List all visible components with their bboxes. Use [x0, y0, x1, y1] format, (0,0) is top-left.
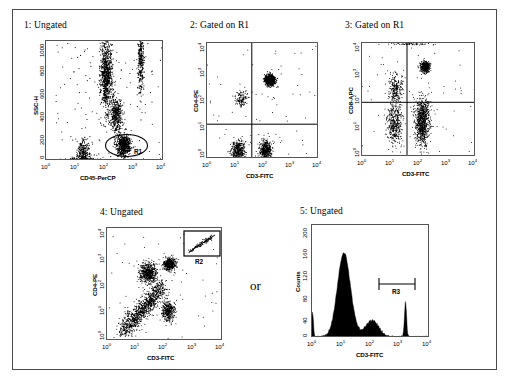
panel-1-scatter — [46, 41, 163, 160]
panel-4-ytick-4: 104 — [99, 229, 105, 238]
connector-or-text: or — [250, 278, 261, 294]
panel-2-ytick-3: 103 — [199, 68, 205, 77]
panel-2-xtick-4: 104 — [312, 162, 321, 168]
panel-3-ytick-3: 103 — [354, 69, 360, 78]
panel-1-ylabel: SSC-H — [32, 96, 39, 115]
panel-5-gate-label-r3: R3 — [392, 288, 400, 295]
panel-4-xtick-4: 104 — [215, 344, 224, 350]
panel-5-xtick-4: 104 — [422, 341, 431, 347]
panel-5-ytick-120: 120 — [302, 271, 308, 281]
panel-3-title: 3: Gated on R1 — [345, 20, 404, 30]
panel-5-ytick-200: 200 — [302, 228, 308, 238]
panel-2-title: 2: Gated on R1 — [190, 20, 249, 30]
panel-3-scatter — [362, 43, 475, 156]
panel-4-xtick-1: 101 — [130, 344, 139, 350]
panel-5-histogram — [312, 225, 429, 337]
panel-1-xlabel: CD45-PerCP — [80, 174, 115, 181]
panel-3-plot-area — [361, 42, 475, 156]
panel-2-xlabel: CD3-FITC — [246, 172, 273, 179]
panel-1-xtick-0: 100 — [41, 164, 50, 170]
panel-5-ytick-80: 80 — [302, 295, 308, 302]
panel-5-xtick-2: 102 — [365, 341, 374, 347]
panel-2-plot-area — [206, 42, 318, 158]
panel-3-xlabel: CD3-FITC — [402, 170, 429, 177]
panel-5-ytick-40: 40 — [302, 317, 308, 324]
panel-4-ytick-2: 102 — [99, 280, 105, 289]
panel-3-ytick-0: 100 — [354, 148, 360, 157]
panel-3-xtick-0: 100 — [357, 160, 366, 166]
panel-4-xtick-2: 102 — [158, 344, 167, 350]
panel-1-xtick-2: 102 — [99, 164, 108, 170]
panel-4-scatter — [107, 228, 222, 340]
panel-1-plot-area — [45, 40, 163, 160]
panel-3-ytick-4: 104 — [354, 43, 360, 52]
panel-3-xtick-3: 103 — [441, 160, 450, 166]
panel-1-xtick-4: 104 — [156, 164, 165, 170]
panel-2-xtick-1: 101 — [230, 162, 239, 168]
panel-2-ytick-1: 101 — [199, 122, 205, 131]
panel-4-xtick-3: 103 — [187, 344, 196, 350]
panel-4-title: 4: Ungated — [100, 207, 143, 217]
panel-2-xtick-0: 100 — [202, 162, 211, 168]
panel-3-ytick-2: 102 — [354, 95, 360, 104]
panel-1-title: 1: Ungated — [24, 20, 67, 30]
panel-5-ylabel: Counts — [294, 271, 301, 292]
panel-5-xtick-1: 101 — [336, 341, 345, 347]
panel-4-plot-area — [106, 227, 222, 340]
panel-3-xtick-4: 104 — [468, 160, 477, 166]
panel-5-xlabel: CD3-FITC — [356, 351, 383, 358]
panel-4-xtick-0: 100 — [102, 344, 111, 350]
panel-1-gate-label-r1: R1 — [134, 148, 142, 155]
panel-5-title: 5: Ungated — [300, 206, 343, 216]
panel-1-xtick-1: 101 — [70, 164, 79, 170]
panel-4-xlabel: CD3-FITC — [147, 354, 174, 361]
panel-2-ytick-4: 104 — [199, 43, 205, 52]
panel-3-ylabel: CD8-APC — [347, 87, 354, 114]
panel-2-xtick-3: 103 — [285, 162, 294, 168]
panel-2-xtick-2: 102 — [258, 162, 267, 168]
panel-2-scatter — [207, 43, 318, 158]
panel-3-ytick-1: 101 — [354, 122, 360, 131]
panel-4-ylabel: CD4-PE — [91, 274, 98, 296]
panel-4-ytick-0: 100 — [99, 331, 105, 340]
panel-5-xtick-0: 100 — [307, 341, 316, 347]
panel-4-ytick-1: 101 — [99, 306, 105, 315]
panel-2-ytick-0: 100 — [199, 149, 205, 158]
panel-2-ylabel: CD4-PE — [192, 90, 199, 112]
panel-5-ytick-0: 0 — [302, 334, 308, 337]
flow-cytometry-figure: 1: Ungated SSC-H 0 200 400 600 800 1000 … — [0, 0, 509, 384]
panel-4-ytick-3: 103 — [99, 254, 105, 263]
panel-2-ytick-2: 102 — [199, 95, 205, 104]
panel-1-xtick-3: 103 — [128, 164, 137, 170]
panel-3-xtick-2: 102 — [413, 160, 422, 166]
panel-4-gate-label-r2: R2 — [195, 258, 203, 265]
panel-5-xtick-3: 103 — [393, 341, 402, 347]
panel-5-ytick-160: 160 — [302, 249, 308, 259]
panel-5-plot-area — [311, 224, 429, 337]
panel-3-xtick-1: 101 — [385, 160, 394, 166]
